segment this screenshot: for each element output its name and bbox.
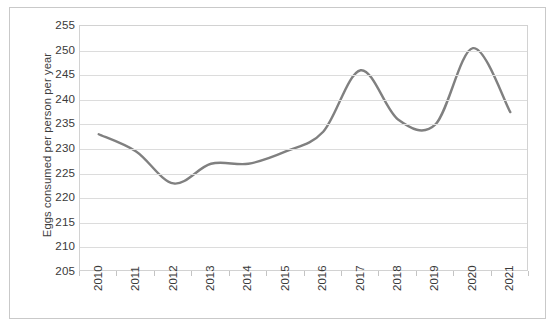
x-axis-tick-mark xyxy=(304,271,305,276)
x-axis-tick-label-text: 2010 xyxy=(91,249,105,291)
x-axis-tick-labels: 2010201120122013201420152016201720182019… xyxy=(79,277,528,327)
x-axis-tick-label-text: 2017 xyxy=(353,249,367,291)
x-axis-tick-label-text: 2014 xyxy=(240,249,254,291)
y-axis-tick-label: 240 xyxy=(41,93,75,105)
gridline xyxy=(80,174,527,175)
y-axis-tick-label: 210 xyxy=(41,240,75,252)
y-axis-tick-labels: 205210215220225230235240245250255 xyxy=(37,0,75,327)
y-axis-tick-label: 230 xyxy=(41,142,75,154)
gridline xyxy=(80,124,527,125)
gridline xyxy=(80,247,527,248)
series-line xyxy=(99,48,511,184)
x-axis-tick-label-text: 2021 xyxy=(502,249,516,291)
y-axis-tick-label: 235 xyxy=(41,117,75,129)
x-axis-tick-label: 2013 xyxy=(203,277,217,319)
x-axis-tick-label: 2019 xyxy=(427,277,441,319)
plot-area xyxy=(79,25,528,271)
x-axis-tick-label: 2016 xyxy=(315,277,329,319)
x-axis-tick-label: 2020 xyxy=(465,277,479,319)
x-axis-tick-label-text: 2020 xyxy=(465,249,479,291)
x-axis-tick-label-text: 2019 xyxy=(427,249,441,291)
x-axis-tick-label: 2014 xyxy=(240,277,254,319)
x-axis-tick-label-text: 2015 xyxy=(278,249,292,291)
x-axis-tick-label: 2012 xyxy=(166,277,180,319)
x-axis-tick-label-text: 2011 xyxy=(128,249,142,291)
x-axis-tick-mark xyxy=(378,271,379,276)
x-axis-tick-label-text: 2016 xyxy=(315,249,329,291)
x-axis-tick-label: 2017 xyxy=(353,277,367,319)
gridline xyxy=(80,198,527,199)
y-axis-tick-label: 220 xyxy=(41,191,75,203)
x-axis-tick-mark xyxy=(154,271,155,276)
x-axis-tick-label: 2010 xyxy=(91,277,105,319)
x-axis-tick-label-text: 2012 xyxy=(166,249,180,291)
x-axis-tick-label: 2021 xyxy=(502,277,516,319)
gridline xyxy=(80,223,527,224)
x-axis-tick-mark xyxy=(341,271,342,276)
gridline xyxy=(80,51,527,52)
x-axis-tick-mark xyxy=(528,271,529,276)
y-axis-tick-label: 215 xyxy=(41,216,75,228)
y-axis-tick-label: 255 xyxy=(41,19,75,31)
x-axis-tick-mark xyxy=(116,271,117,276)
gridline xyxy=(80,100,527,101)
y-axis-tick-label: 205 xyxy=(41,265,75,277)
x-axis-tick-mark xyxy=(266,271,267,276)
x-axis-tick-mark xyxy=(416,271,417,276)
y-axis-tick-label: 250 xyxy=(41,44,75,56)
x-axis-tick-label-text: 2018 xyxy=(390,249,404,291)
x-axis-tick-mark xyxy=(191,271,192,276)
gridline xyxy=(80,75,527,76)
x-axis-tick-label: 2018 xyxy=(390,277,404,319)
gridline xyxy=(80,149,527,150)
x-axis-tick-label: 2015 xyxy=(278,277,292,319)
x-axis-tick-label-text: 2013 xyxy=(203,249,217,291)
x-axis-tick-mark xyxy=(79,271,80,276)
x-axis-tick-mark xyxy=(453,271,454,276)
chart-figure: Eggs consumed per person per year 205210… xyxy=(0,0,556,327)
x-axis-tick-mark xyxy=(491,271,492,276)
y-axis-tick-label: 245 xyxy=(41,68,75,80)
x-axis-tick-label: 2011 xyxy=(128,277,142,319)
y-axis-tick-label: 225 xyxy=(41,167,75,179)
x-axis-tick-mark xyxy=(229,271,230,276)
